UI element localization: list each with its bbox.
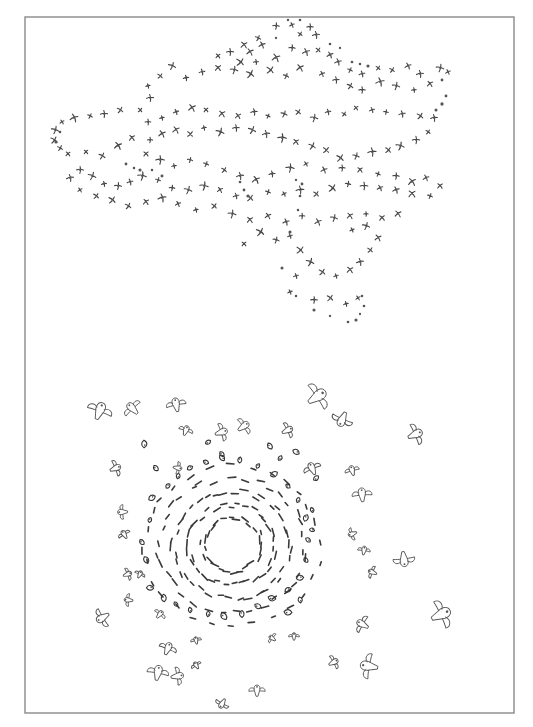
- bird-dash-icon: [205, 508, 209, 511]
- bird-glyph-cross-icon: [187, 103, 198, 114]
- bird-dot-icon: [301, 183, 304, 186]
- bird-dash-icon: [311, 575, 313, 579]
- bird-dash-icon: [278, 579, 281, 582]
- bird-glyph-cross-icon: [314, 46, 321, 53]
- bird-outline-icon: [172, 461, 183, 475]
- bird-glyph-cross-icon: [369, 107, 376, 114]
- bird-outline-icon: [177, 423, 194, 437]
- bird-dash-icon: [253, 528, 256, 532]
- bird-glyph-cross-icon: [277, 133, 286, 142]
- bird-glyph-cross-icon: [299, 213, 305, 219]
- bird-glyph-cross-icon: [101, 181, 107, 187]
- bird-outline-icon: [329, 408, 355, 431]
- bird-glyph-cross-icon: [264, 64, 276, 76]
- bird-dash-icon: [260, 574, 266, 578]
- bird-glyph-cross-icon: [334, 58, 342, 66]
- bird-glyph-cross-icon: [366, 246, 374, 254]
- bird-glyph-cross-icon: [376, 184, 384, 192]
- bird-glyph-cross-icon: [227, 209, 236, 218]
- bird-dash-icon: [302, 594, 305, 598]
- bird-glyph-small-icon: [277, 455, 283, 461]
- bird-dash-icon: [280, 567, 284, 572]
- bird-dot-icon: [280, 266, 283, 269]
- bird-glyph-cross-icon: [217, 109, 227, 119]
- bird-outline-icon: [117, 527, 132, 541]
- bird-glyph-cross-icon: [183, 75, 189, 81]
- bird-glyph-small-icon: [165, 483, 171, 490]
- bird-dash-icon: [208, 531, 210, 537]
- bird-outline-icon: [357, 545, 371, 556]
- bird-dash-icon: [188, 529, 190, 537]
- bird-glyph-small-icon: [284, 586, 292, 593]
- bird-glyph-cross-icon: [92, 192, 101, 201]
- bird-outline-icon: [214, 696, 232, 712]
- bird-outline-icon: [266, 632, 279, 645]
- bird-dot-icon: [445, 95, 448, 98]
- bird-glyph-cross-icon: [353, 105, 360, 112]
- bird-glyph-cross-icon: [116, 106, 125, 115]
- bird-glyph-cross-icon: [69, 113, 80, 124]
- bird-dash-icon: [270, 506, 274, 510]
- bird-dash-icon: [214, 508, 221, 512]
- bird-glyph-cross-icon: [183, 185, 193, 195]
- bird-glyph-cross-icon: [320, 166, 329, 175]
- bird-glyph-small-icon: [147, 517, 152, 523]
- bird-glyph-small-icon: [239, 611, 244, 618]
- bird-dash-icon: [190, 505, 193, 508]
- bird-glyph-small-icon: [186, 465, 193, 472]
- bird-glyph-cross-icon: [392, 82, 401, 91]
- bird-glyph-cross-icon: [373, 233, 383, 243]
- bird-dot-icon: [287, 19, 289, 21]
- bird-glyph-cross-icon: [56, 144, 63, 151]
- bird-glyph-cross-icon: [270, 52, 282, 64]
- bird-glyph-cross-icon: [245, 193, 255, 203]
- bird-dash-icon: [205, 593, 211, 597]
- bird-dash-icon: [252, 507, 257, 510]
- bird-glyph-cross-icon: [49, 135, 59, 145]
- bird-glyph-cross-icon: [292, 138, 301, 147]
- bird-glyph-cross-icon: [345, 265, 355, 275]
- bird-glyph-cross-icon: [137, 171, 147, 181]
- bird-dash-icon: [205, 609, 212, 611]
- bird-glyph-cross-icon: [145, 119, 151, 125]
- bird-glyph-small-icon: [152, 464, 159, 472]
- bird-glyph-cross-icon: [301, 47, 310, 56]
- bird-glyph-small-icon: [266, 442, 274, 450]
- bird-glyph-cross-icon: [294, 108, 302, 116]
- bird-dash-icon: [272, 529, 274, 537]
- bird-dot-icon: [359, 63, 362, 66]
- bird-dash-icon: [199, 586, 204, 590]
- bird-dot-icon: [125, 163, 128, 166]
- bird-glyph-cross-icon: [272, 236, 280, 244]
- bird-dash-icon: [158, 541, 159, 546]
- bird-glyph-cross-icon: [388, 66, 396, 74]
- bird-glyph-small-icon: [305, 536, 312, 543]
- bird-glyph-cross-icon: [185, 129, 194, 138]
- bird-glyph-cross-icon: [360, 182, 368, 190]
- bird-dash-icon: [238, 598, 243, 600]
- bird-dash-icon: [244, 598, 252, 599]
- upper-flock-group: [49, 19, 451, 324]
- bird-outline-icon: [346, 526, 359, 541]
- bird-glyph-cross-icon: [416, 70, 424, 78]
- bird-glyph-cross-icon: [167, 61, 177, 71]
- bird-dash-icon: [257, 480, 264, 481]
- bird-dash-icon: [306, 505, 307, 509]
- bird-dash-icon: [258, 555, 261, 561]
- bird-glyph-cross-icon: [236, 172, 244, 180]
- bird-glyph-cross-icon: [215, 127, 226, 138]
- bird-glyph-cross-icon: [355, 295, 362, 302]
- bird-glyph-small-icon: [255, 463, 260, 469]
- bird-outline-icon: [107, 459, 124, 478]
- bird-dash-icon: [246, 523, 250, 527]
- bird-dash-icon: [243, 566, 248, 569]
- bird-dot-icon: [441, 79, 444, 82]
- bird-glyph-cross-icon: [282, 72, 289, 79]
- bird-dash-icon: [291, 547, 293, 553]
- bird-dash-icon: [269, 559, 272, 566]
- bird-glyph-cross-icon: [147, 137, 152, 142]
- bird-glyph-cross-icon: [422, 174, 430, 182]
- bird-glyph-cross-icon: [213, 63, 223, 73]
- bird-dash-icon: [288, 605, 294, 608]
- bird-dash-icon: [172, 579, 177, 585]
